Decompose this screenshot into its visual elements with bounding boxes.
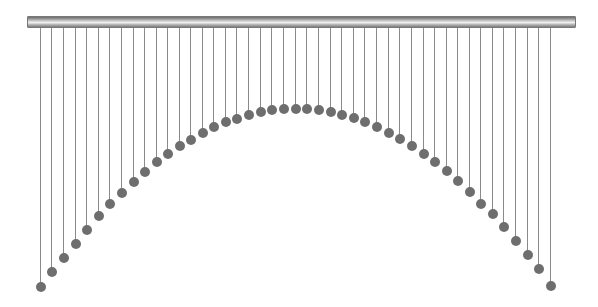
pendulum-string — [156, 28, 157, 162]
pendulum-bob — [198, 128, 208, 138]
pendulum-string — [399, 28, 400, 139]
pendulum-string — [283, 28, 284, 109]
pendulum-string — [271, 28, 272, 110]
pendulum-string — [109, 28, 110, 204]
pendulum-string — [144, 28, 145, 172]
pendulum-bob — [291, 104, 301, 114]
pendulum-string — [515, 28, 516, 241]
pendulum-string — [225, 28, 226, 122]
pendulum-bob — [209, 122, 219, 132]
pendulum-bob — [175, 141, 185, 151]
pendulum-bob — [221, 117, 231, 127]
pendulum-bob — [244, 110, 254, 120]
pendulum-bob — [395, 134, 405, 144]
pendulum-string — [411, 28, 412, 146]
pendulum-string — [202, 28, 203, 133]
pendulum-bob — [117, 188, 127, 198]
pendulum-string — [341, 28, 342, 115]
pendulum-string — [423, 28, 424, 154]
pendulum-string — [236, 28, 237, 119]
pendulum-string — [98, 28, 99, 216]
pendulum-bob — [232, 114, 242, 124]
pendulum-bob — [442, 166, 452, 176]
pendulum-string — [434, 28, 435, 162]
pendulum-bob — [267, 105, 277, 115]
pendulum-string — [550, 28, 551, 286]
pendulum-bob — [419, 149, 429, 159]
pendulum-string — [364, 28, 365, 122]
pendulum-string — [480, 28, 481, 204]
pendulum-string — [318, 28, 319, 110]
pendulum-bob — [140, 167, 150, 177]
pendulum-bob — [47, 267, 57, 277]
pendulum-string — [86, 28, 87, 230]
pendulum-string — [121, 28, 122, 193]
pendulum-string — [40, 28, 41, 287]
pendulum-string — [295, 28, 296, 109]
pendulum-string — [51, 28, 52, 272]
pendulum-bob — [430, 157, 440, 167]
pendulum-bob — [36, 282, 46, 292]
pendulum-bob — [337, 110, 347, 120]
pendulum-bob — [546, 281, 556, 291]
pendulum-string — [446, 28, 447, 171]
pendulum-string — [213, 28, 214, 127]
pendulum-bob — [105, 199, 115, 209]
pendulum-bob — [511, 236, 521, 246]
pendulum-string — [353, 28, 354, 118]
pendulum-string — [133, 28, 134, 182]
pendulum-bob — [384, 128, 394, 138]
pendulum-bob — [360, 117, 370, 127]
suspension-bar — [27, 16, 576, 28]
pendulum-bob — [523, 250, 533, 260]
pendulum-bob — [314, 105, 324, 115]
pendulum-bob — [302, 104, 312, 114]
pendulum-string — [492, 28, 493, 214]
pendulum-bob — [349, 113, 359, 123]
pendulum-string — [306, 28, 307, 109]
pendulum-bob — [407, 141, 417, 151]
pendulum-bob — [476, 199, 486, 209]
pendulum-bob — [94, 211, 104, 221]
pendulum-bob — [326, 107, 336, 117]
pendulum-bob — [59, 253, 69, 263]
pendulum-bob — [82, 225, 92, 235]
pendulum-string — [179, 28, 180, 146]
pendulum-bob — [465, 187, 475, 197]
pendulum-string — [75, 28, 76, 244]
pendulum-string — [248, 28, 249, 115]
pendulum-string — [260, 28, 261, 112]
pendulum-string — [457, 28, 458, 181]
pendulum-bob — [129, 177, 139, 187]
pendulum-string — [469, 28, 470, 192]
pendulum-string — [63, 28, 64, 258]
pendulum-bob — [71, 239, 81, 249]
pendulum-string — [527, 28, 528, 255]
pendulum-bob — [534, 264, 544, 274]
pendulum-string — [330, 28, 331, 112]
pendulum-bob — [256, 107, 266, 117]
pendulum-string — [388, 28, 389, 133]
pendulum-string — [167, 28, 168, 154]
pendulum-bob — [279, 104, 289, 114]
pendulum-bob — [488, 209, 498, 219]
pendulum-bob — [186, 135, 196, 145]
pendulum-string — [538, 28, 539, 269]
pendulum-bob — [453, 176, 463, 186]
pendulum-string — [376, 28, 377, 127]
pendulum-string — [503, 28, 504, 227]
pendulum-bob — [499, 222, 509, 232]
pendulum-bob — [163, 149, 173, 159]
pendulum-string — [190, 28, 191, 140]
pendulum-bob — [372, 122, 382, 132]
pendulum-wave-canvas — [0, 0, 598, 307]
pendulum-bob — [152, 157, 162, 167]
